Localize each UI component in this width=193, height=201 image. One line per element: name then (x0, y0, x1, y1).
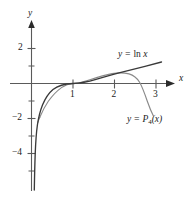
curve-label-taylor-p4: y = P4(x) (127, 115, 162, 125)
curve-label-poly-arg: (x) (152, 114, 163, 124)
x-axis-label: x (179, 74, 183, 84)
graph-figure: y x 2 −2 −4 1 2 3 y = ln x y = P4(x) (0, 0, 193, 201)
curve-label-ln-lead: y = (118, 49, 133, 59)
x-tick-label-1: 1 (70, 90, 75, 100)
curve-label-ln-var: x (143, 49, 147, 59)
y-axis-label: y (28, 9, 32, 19)
y-axis-arrowhead (28, 20, 35, 28)
curve-label-ln-x: y = ln x (118, 50, 147, 60)
x-axis-arrowhead (166, 80, 175, 87)
curve-label-poly-lead: y = (127, 114, 142, 124)
curve-label-ln-fn: ln (133, 49, 140, 59)
y-tick-label-minus-4: −4 (12, 148, 22, 158)
plot-canvas (0, 0, 193, 201)
x-tick-label-2: 2 (112, 90, 117, 100)
curve-label-poly-subscript: 4 (148, 118, 152, 126)
y-tick-label-2: 2 (18, 43, 23, 53)
y-tick-label-minus-2: −2 (12, 113, 22, 123)
curve-ln-x (34, 62, 161, 190)
x-tick-label-3: 3 (153, 90, 158, 100)
